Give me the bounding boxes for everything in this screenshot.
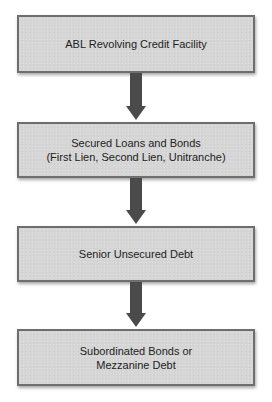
node-label: Subordinated Bonds or bbox=[80, 344, 193, 358]
arrow-shaft bbox=[130, 282, 142, 315]
node-senior-unsecured-debt: Senior Unsecured Debt bbox=[17, 226, 255, 282]
arrow-shaft bbox=[130, 73, 142, 108]
node-label: ABL Revolving Credit Facility bbox=[65, 37, 206, 51]
node-label-line2: Mezzanine Debt bbox=[96, 358, 176, 372]
node-subordinated-bonds-or-mezzanine-debt: Subordinated Bonds or Mezzanine Debt bbox=[17, 329, 255, 386]
node-label: Senior Unsecured Debt bbox=[79, 247, 193, 261]
arrow-head bbox=[126, 106, 146, 120]
arrow-down-icon bbox=[126, 178, 146, 225]
arrow-down-icon bbox=[126, 282, 146, 328]
arrow-head bbox=[126, 313, 146, 327]
node-label: Secured Loans and Bonds bbox=[71, 136, 201, 150]
arrow-shaft bbox=[130, 178, 142, 212]
node-secured-loans-and-bonds: Secured Loans and Bonds (First Lien, Sec… bbox=[17, 122, 255, 178]
arrow-down-icon bbox=[126, 73, 146, 121]
arrow-head bbox=[126, 210, 146, 224]
node-abl-revolving-credit-facility: ABL Revolving Credit Facility bbox=[17, 15, 255, 73]
node-sublabel: (First Lien, Second Lien, Unitranche) bbox=[46, 150, 225, 164]
